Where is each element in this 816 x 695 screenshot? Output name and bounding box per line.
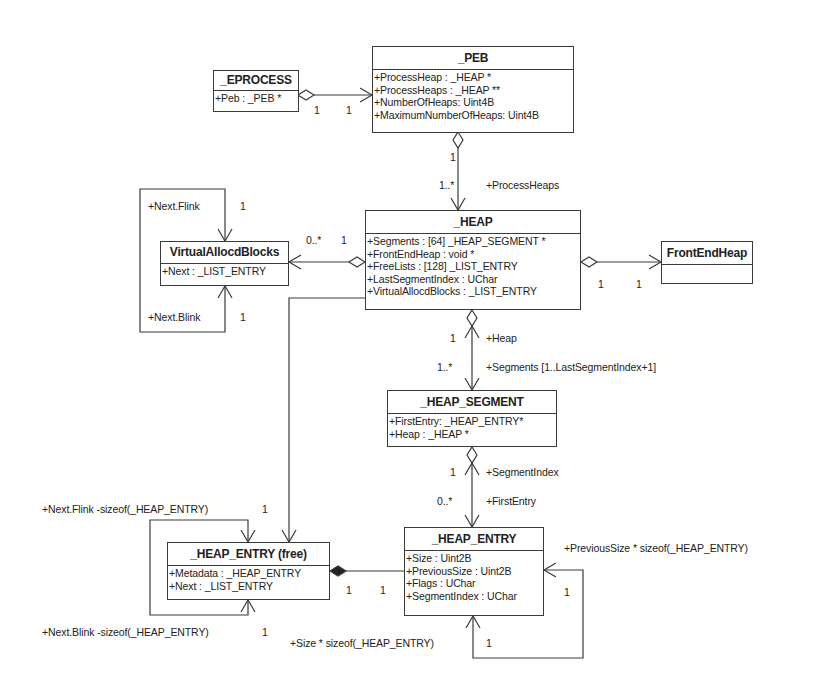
multiplicity-label: 1 — [341, 234, 347, 246]
class-attributes — [662, 265, 752, 268]
multiplicity-label: 1 — [346, 584, 352, 596]
class-name: VirtualAllocdBlocks — [161, 242, 288, 264]
multiplicity-label: 1 — [314, 104, 320, 116]
class-attributes: +Peb : _PEB * — [214, 91, 298, 107]
attribute: +ProcessHeaps : _HEAP ** — [374, 84, 572, 97]
class-heap-segment[interactable]: _HEAP_SEGMENT +FirstEntry: _HEAP_ENTRY* … — [387, 390, 557, 447]
multiplicity-label: 1 — [262, 626, 268, 638]
multiplicity-label: 1 — [486, 637, 492, 649]
class-name: _EPROCESS — [214, 71, 298, 91]
multiplicity-label: 1..* — [437, 361, 452, 373]
multiplicity-label: 0..* — [437, 495, 452, 507]
class-heap-entry[interactable]: _HEAP_ENTRY +Size : Uint2B +PreviousSize… — [404, 527, 544, 616]
composition-diamond-icon — [330, 566, 346, 576]
role-label: +ProcessHeaps — [486, 179, 559, 191]
attribute: +Segments : [64] _HEAP_SEGMENT * — [367, 235, 579, 248]
role-label: +Next.Blink — [148, 311, 200, 323]
class-attributes: +Metadata : _HEAP_ENTRY +Next : _LIST_EN… — [168, 566, 329, 594]
attribute: +ProcessHeap : _HEAP * — [374, 71, 572, 84]
attribute: +Next : _LIST_ENTRY — [169, 580, 328, 593]
class-attributes: +Segments : [64] _HEAP_SEGMENT * +FrontE… — [366, 234, 580, 300]
multiplicity-label: 1 — [240, 200, 246, 212]
role-label: +SegmentIndex — [486, 466, 559, 478]
multiplicity-label: 1 — [240, 311, 246, 323]
class-name: _PEB — [373, 47, 573, 70]
attribute: +Flags : UChar — [406, 577, 542, 590]
multiplicity-label: 1 — [346, 104, 352, 116]
aggregation-diamond-icon — [298, 90, 314, 100]
class-name: _HEAP_ENTRY — [405, 528, 543, 551]
attribute: +Heap : _HEAP * — [389, 428, 555, 441]
role-label: +Segments [1..LastSegmentIndex+1] — [486, 361, 656, 373]
multiplicity-label: 1 — [450, 151, 456, 163]
role-label: +Next.Flink — [148, 200, 200, 212]
multiplicity-label: 1..* — [439, 179, 454, 191]
attribute: +Metadata : _HEAP_ENTRY — [169, 567, 328, 580]
class-name: _HEAP_SEGMENT — [388, 391, 556, 414]
attribute: +LastSegmentIndex : UChar — [367, 273, 579, 286]
role-label: +Next.Flink -sizeof(_HEAP_ENTRY) — [42, 503, 208, 515]
class-name: _HEAP_ENTRY (free) — [168, 543, 329, 566]
class-name: _HEAP — [366, 211, 580, 234]
role-label: +Heap — [486, 332, 517, 344]
class-attributes: +Size : Uint2B +PreviousSize : Uint2B +F… — [405, 551, 543, 604]
class-heap-entry-free[interactable]: _HEAP_ENTRY (free) +Metadata : _HEAP_ENT… — [167, 542, 330, 600]
attribute: +SegmentIndex : UChar — [406, 590, 542, 603]
role-label: +FirstEntry — [486, 495, 536, 507]
role-label: +Next.Blink -sizeof(_HEAP_ENTRY) — [42, 626, 209, 638]
class-attributes: +FirstEntry: _HEAP_ENTRY* +Heap : _HEAP … — [388, 414, 556, 442]
attribute: +FirstEntry: _HEAP_ENTRY* — [389, 415, 555, 428]
multiplicity-label: 1 — [380, 584, 386, 596]
role-label: +PreviousSize * sizeof(_HEAP_ENTRY) — [564, 542, 748, 554]
attribute: +Peb : _PEB * — [215, 92, 297, 105]
attribute: +PreviousSize : Uint2B — [406, 565, 542, 578]
attribute: +MaximumNumberOfHeaps: Uint4B — [374, 109, 572, 122]
attribute: +VirtualAllocdBlocks : _LIST_ENTRY — [367, 285, 579, 298]
class-peb[interactable]: _PEB +ProcessHeap : _HEAP * +ProcessHeap… — [372, 46, 574, 133]
multiplicity-label: 1 — [564, 586, 570, 598]
multiplicity-label: 1 — [450, 332, 456, 344]
multiplicity-label: 0..* — [306, 234, 321, 246]
role-label: +Size * sizeof(_HEAP_ENTRY) — [290, 637, 434, 649]
attribute: +FreeLists : [128] _LIST_ENTRY — [367, 260, 579, 273]
class-eprocess[interactable]: _EPROCESS +Peb : _PEB * — [213, 70, 299, 112]
attribute: +Size : Uint2B — [406, 552, 542, 565]
multiplicity-label: 1 — [636, 278, 642, 290]
class-attributes: +Next : _LIST_ENTRY — [161, 264, 288, 280]
attribute: +Next : _LIST_ENTRY — [162, 265, 287, 278]
class-virtualallocdblocks[interactable]: VirtualAllocdBlocks +Next : _LIST_ENTRY — [160, 241, 289, 286]
attribute: +NumberOfHeaps: Uint4B — [374, 96, 572, 109]
multiplicity-label: 1 — [598, 278, 604, 290]
class-attributes: +ProcessHeap : _HEAP * +ProcessHeaps : _… — [373, 70, 573, 123]
uml-diagram-canvas: _EPROCESS +Peb : _PEB * _PEB +ProcessHea… — [0, 0, 816, 695]
class-heap[interactable]: _HEAP +Segments : [64] _HEAP_SEGMENT * +… — [365, 210, 581, 310]
class-name: FrontEndHeap — [662, 242, 752, 265]
class-frontendheap[interactable]: FrontEndHeap — [661, 241, 753, 284]
attribute: +FrontEndHeap : void * — [367, 248, 579, 261]
multiplicity-label: 1 — [450, 466, 456, 478]
multiplicity-label: 1 — [262, 503, 268, 515]
